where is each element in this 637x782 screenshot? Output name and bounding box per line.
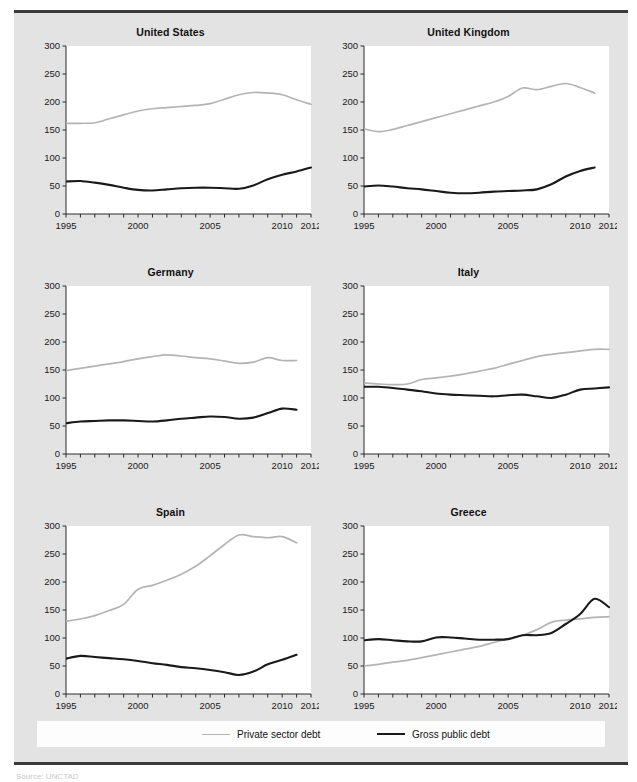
y-tick-label: 250 <box>44 68 60 79</box>
y-tick-label: 250 <box>342 548 358 559</box>
legend-item-gross-public-debt: Gross public debt <box>377 721 490 747</box>
x-tick-label: 2012 <box>598 460 617 471</box>
x-tick-label: 2012 <box>598 220 617 231</box>
y-tick-label: 150 <box>44 364 60 375</box>
panel-title: Greece <box>320 506 617 518</box>
legend-label: Private sector debt <box>237 729 320 740</box>
y-tick-label: 100 <box>44 632 60 643</box>
y-tick-label: 50 <box>49 180 60 191</box>
y-tick-label: 50 <box>347 660 358 671</box>
x-tick-label: 2005 <box>498 460 519 471</box>
legend-line-private <box>202 734 230 735</box>
y-tick-label: 0 <box>353 448 358 459</box>
x-tick-label: 2005 <box>200 460 221 471</box>
y-tick-label: 300 <box>342 520 358 531</box>
x-tick-label: 2005 <box>200 700 221 711</box>
panel-spain: Spain 0501001502002503001995200020052010… <box>22 504 319 736</box>
x-tick-label: 2005 <box>498 220 519 231</box>
legend: Private sector debt Gross public debt <box>37 721 605 747</box>
y-tick-label: 300 <box>44 520 60 531</box>
y-tick-label: 200 <box>44 336 60 347</box>
chart-svg: 05010015020025030019952000200520102012 <box>320 280 617 480</box>
plot-area: 05010015020025030019952000200520102012 <box>320 40 617 240</box>
panel-italy: Italy 0501001502002503001995200020052010… <box>320 264 617 496</box>
plot-area: 05010015020025030019952000200520102012 <box>320 520 617 720</box>
y-tick-label: 250 <box>44 548 60 559</box>
y-tick-label: 200 <box>342 96 358 107</box>
x-tick-label: 1995 <box>55 220 76 231</box>
plot-area: 05010015020025030019952000200520102012 <box>22 520 319 720</box>
x-tick-label: 2010 <box>570 220 591 231</box>
x-tick-label: 1995 <box>353 220 374 231</box>
plot-area: 05010015020025030019952000200520102012 <box>22 280 319 480</box>
source-note: Source: UNCTAD <box>16 772 616 781</box>
plot-background <box>364 46 609 214</box>
x-tick-label: 2000 <box>127 460 148 471</box>
panel-title: United States <box>22 26 319 38</box>
panel-united-kingdom: United Kingdom 0501001502002503001995200… <box>320 24 617 256</box>
y-tick-label: 150 <box>44 604 60 615</box>
panel-united-states: United States 05010015020025030019952000… <box>22 24 319 256</box>
plot-area: 05010015020025030019952000200520102012 <box>22 40 319 240</box>
panel-title: Spain <box>22 506 319 518</box>
top-rule <box>14 10 628 13</box>
x-tick-label: 2000 <box>425 220 446 231</box>
x-tick-label: 2012 <box>300 700 319 711</box>
x-tick-label: 2010 <box>570 700 591 711</box>
chart-svg: 05010015020025030019952000200520102012 <box>22 280 319 480</box>
x-tick-label: 2012 <box>598 700 617 711</box>
y-tick-label: 200 <box>342 336 358 347</box>
chart-svg: 05010015020025030019952000200520102012 <box>320 40 617 240</box>
y-tick-label: 50 <box>49 420 60 431</box>
x-tick-label: 2010 <box>570 460 591 471</box>
x-tick-label: 1995 <box>353 700 374 711</box>
y-tick-label: 100 <box>44 392 60 403</box>
x-tick-label: 2000 <box>425 700 446 711</box>
x-tick-label: 2010 <box>272 220 293 231</box>
chart-svg: 05010015020025030019952000200520102012 <box>22 40 319 240</box>
y-tick-label: 150 <box>44 124 60 135</box>
y-tick-label: 0 <box>55 448 60 459</box>
y-tick-label: 50 <box>347 180 358 191</box>
x-tick-label: 1995 <box>55 460 76 471</box>
legend-line-public <box>377 733 405 735</box>
y-tick-label: 0 <box>353 208 358 219</box>
y-tick-label: 200 <box>44 576 60 587</box>
chart-svg: 05010015020025030019952000200520102012 <box>22 520 319 720</box>
y-tick-label: 100 <box>342 632 358 643</box>
legend-label: Gross public debt <box>412 729 490 740</box>
panel-title: Italy <box>320 266 617 278</box>
bottom-rule <box>14 762 628 765</box>
x-tick-label: 1995 <box>55 700 76 711</box>
chart-svg: 05010015020025030019952000200520102012 <box>320 520 617 720</box>
y-tick-label: 0 <box>55 688 60 699</box>
y-tick-label: 100 <box>44 152 60 163</box>
y-tick-label: 150 <box>342 124 358 135</box>
panel-greece: Greece 050100150200250300199520002005201… <box>320 504 617 736</box>
plot-background <box>66 526 311 694</box>
y-tick-label: 100 <box>342 392 358 403</box>
x-tick-label: 2000 <box>127 700 148 711</box>
y-tick-label: 0 <box>55 208 60 219</box>
x-tick-label: 1995 <box>353 460 374 471</box>
y-tick-label: 200 <box>342 576 358 587</box>
panel-title: United Kingdom <box>320 26 617 38</box>
panel-germany: Germany 05010015020025030019952000200520… <box>22 264 319 496</box>
legend-item-private-sector-debt: Private sector debt <box>202 721 320 747</box>
panel-title: Germany <box>22 266 319 278</box>
y-tick-label: 250 <box>44 308 60 319</box>
y-tick-label: 300 <box>342 40 358 51</box>
x-tick-label: 2012 <box>300 220 319 231</box>
y-tick-label: 150 <box>342 604 358 615</box>
x-tick-label: 2005 <box>498 700 519 711</box>
x-tick-label: 2012 <box>300 460 319 471</box>
y-tick-label: 250 <box>342 308 358 319</box>
y-tick-label: 50 <box>347 420 358 431</box>
plot-area: 05010015020025030019952000200520102012 <box>320 280 617 480</box>
y-tick-label: 200 <box>44 96 60 107</box>
y-tick-label: 150 <box>342 364 358 375</box>
y-tick-label: 300 <box>44 280 60 291</box>
x-tick-label: 2000 <box>425 460 446 471</box>
x-tick-label: 2005 <box>200 220 221 231</box>
plot-background <box>364 526 609 694</box>
